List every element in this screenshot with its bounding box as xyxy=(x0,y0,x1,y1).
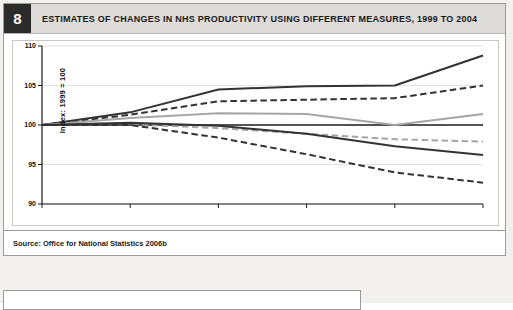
figure-title: ESTIMATES OF CHANGES IN NHS PRODUCTIVITY… xyxy=(42,4,477,33)
y-tick-label: 90 xyxy=(12,200,36,207)
figure-header: 8 ESTIMATES OF CHANGES IN NHS PRODUCTIVI… xyxy=(4,4,505,34)
series-line xyxy=(42,124,483,141)
y-tick-label: 105 xyxy=(12,82,36,89)
series-line xyxy=(42,55,483,125)
y-tick-label: 110 xyxy=(12,42,36,49)
series-line xyxy=(42,125,483,183)
source-strip: Source: Office for National Statistics 2… xyxy=(4,230,505,255)
y-axis-label: Index: 1999 = 100 xyxy=(58,41,67,161)
figure-number-badge: 8 xyxy=(4,4,31,33)
bottom-partial-box xyxy=(3,290,361,310)
y-tick-label: 100 xyxy=(12,121,36,128)
source-text: Source: Office for National Statistics 2… xyxy=(13,239,167,248)
line-chart xyxy=(12,40,499,226)
y-tick-label: 95 xyxy=(12,161,36,168)
figure-container: 8 ESTIMATES OF CHANGES IN NHS PRODUCTIVI… xyxy=(3,3,506,256)
